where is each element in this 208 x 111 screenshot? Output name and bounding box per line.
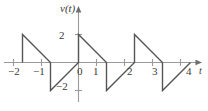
y-axis-title: v(t) (60, 3, 75, 14)
waveform-figure: v(t) t 2 −2 −2 −1 0 1 2 3 4 (0, 0, 208, 111)
y-tick-label-minus-2: −2 (56, 81, 68, 92)
x-tick-label-4: 4 (186, 66, 192, 77)
x-tick-label-1: 1 (93, 66, 99, 77)
x-tick-label-2: 2 (127, 66, 133, 77)
plot-canvas (0, 0, 208, 111)
y-tick-label-2: 2 (59, 30, 65, 41)
x-tick-label-0: 0 (77, 66, 83, 77)
x-tick-label-minus-2: −2 (8, 66, 20, 77)
x-axis-title: t (199, 66, 202, 76)
x-tick-label-minus-1: −1 (33, 66, 45, 77)
x-tick-label-3: 3 (152, 66, 158, 77)
